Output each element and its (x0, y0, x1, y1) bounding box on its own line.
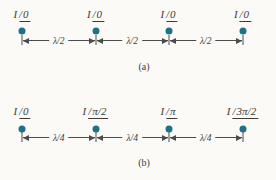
arrowhead-right (162, 38, 168, 44)
angle-notation: /0 (19, 9, 31, 22)
element-phasor-label: I/0 (234, 9, 251, 22)
current-symbol: I (227, 105, 231, 117)
spacing-label: λ/4 (49, 133, 69, 143)
antenna-element-dot (19, 28, 26, 35)
angle-symbol: / (88, 105, 91, 117)
angle-notation: /π (166, 106, 178, 119)
arrowhead-right (162, 135, 168, 141)
phase-value: 3π/2 (237, 105, 257, 117)
current-symbol: I (160, 8, 164, 20)
spacing-label: λ/2 (196, 36, 216, 46)
angle-notation: /0 (240, 9, 252, 22)
arrowhead-left (97, 38, 103, 44)
current-symbol: I (160, 105, 164, 117)
arrowhead-left (170, 135, 176, 141)
angle-symbol: / (240, 8, 243, 20)
angle-notation: /3π/2 (233, 106, 259, 119)
element-phasor-label: I/0 (13, 106, 30, 119)
caption-b: (b) (138, 158, 150, 168)
angle-symbol: / (93, 8, 96, 20)
antenna-element-dot (92, 28, 99, 35)
angle-symbol: / (233, 105, 236, 117)
current-symbol: I (234, 8, 238, 20)
antenna-element-dot (166, 28, 173, 35)
spacing-label: λ/4 (122, 133, 142, 143)
angle-symbol: / (19, 105, 22, 117)
arrowhead-right (89, 135, 95, 141)
angle-notation: /0 (166, 9, 178, 22)
phase-value: 0 (170, 8, 176, 20)
arrowhead-left (97, 135, 103, 141)
element-phasor-label: I/π/2 (83, 106, 109, 119)
angle-symbol: / (19, 8, 22, 20)
current-symbol: I (13, 8, 17, 20)
dimension-tick (242, 35, 243, 45)
element-phasor-label: I/π (160, 106, 177, 119)
element-phasor-label: I/0 (87, 9, 104, 22)
phase-value: π/2 (92, 105, 106, 117)
current-symbol: I (87, 8, 91, 20)
current-symbol: I (83, 105, 87, 117)
phase-value: 0 (97, 8, 103, 20)
angle-symbol: / (166, 8, 169, 20)
angle-symbol: / (166, 105, 169, 117)
spacing-label: λ/2 (49, 36, 69, 46)
arrowhead-left (23, 38, 29, 44)
arrowhead-right (236, 135, 242, 141)
angle-notation: /0 (19, 106, 31, 119)
element-phasor-label: I/0 (13, 9, 30, 22)
caption-a: (a) (138, 62, 149, 72)
dimension-tick (242, 132, 243, 142)
phase-value: 0 (23, 105, 29, 117)
arrowhead-right (236, 38, 242, 44)
element-phasor-label: I/3π/2 (227, 106, 258, 119)
arrowhead-right (89, 38, 95, 44)
phase-value: 0 (244, 8, 250, 20)
spacing-label: λ/4 (196, 133, 216, 143)
arrowhead-left (170, 38, 176, 44)
antenna-element-dot (239, 28, 246, 35)
antenna-array-figure: I/0I/0I/0I/0λ/2λ/2λ/2 (a) I/0I/π/2I/πI/3… (0, 0, 276, 180)
phase-value: π (170, 105, 176, 117)
spacing-label: λ/2 (122, 36, 142, 46)
angle-notation: /π/2 (88, 106, 108, 119)
element-phasor-label: I/0 (160, 9, 177, 22)
arrowhead-left (23, 135, 29, 141)
phase-value: 0 (23, 8, 29, 20)
angle-notation: /0 (93, 9, 105, 22)
current-symbol: I (13, 105, 17, 117)
